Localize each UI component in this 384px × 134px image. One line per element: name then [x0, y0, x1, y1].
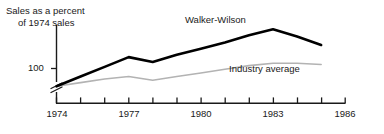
series-line-walker-wilson	[57, 29, 322, 86]
x-axis-tick-label-1977: 1977	[118, 108, 139, 119]
series-label-industry-average: Industry average	[229, 63, 300, 74]
series-label-walker-wilson: Walker-Wilson	[185, 14, 246, 25]
x-axis-tick-label-1980: 1980	[190, 108, 211, 119]
chart-title-line-2: of 1974 sales	[18, 17, 75, 28]
chart-title-line-1: Sales as a percent	[6, 5, 85, 16]
sales-index-line-chart: Sales as a percent of 1974 sales 100 Wal…	[0, 0, 384, 134]
x-axis-tick-label-1986: 1986	[334, 108, 355, 119]
y-axis-tick-label-100: 100	[28, 62, 44, 73]
x-axis-tick-label-1983: 1983	[262, 108, 283, 119]
x-axis-tick-label-1974: 1974	[46, 108, 67, 119]
x-axis-ticks	[57, 97, 346, 103]
